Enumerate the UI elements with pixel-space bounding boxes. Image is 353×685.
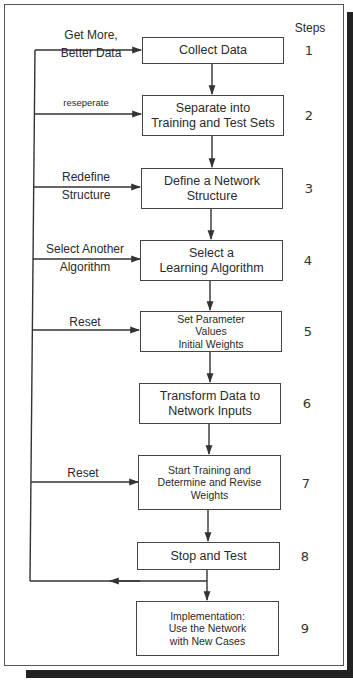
label-text: Get More,: [46, 28, 136, 43]
step-box-start-training: Start Training and Determine and Revise …: [138, 455, 281, 510]
feedback-label-select-another-algorithm: Select Another Algorithm: [38, 242, 132, 275]
box-text: Implementation:: [170, 610, 245, 623]
label-text: Select Another: [38, 242, 132, 257]
step-box-select-algorithm: Select a Learning Algorithm: [140, 240, 283, 281]
step-box-separate-sets: Separate into Training and Test Sets: [142, 95, 284, 136]
box-text: Select a: [189, 246, 234, 261]
feedback-vertical-line: [30, 50, 35, 581]
box-text: Set Parameter: [177, 313, 245, 326]
step-number-6: 6: [295, 396, 319, 411]
step-number-9: 9: [293, 621, 317, 636]
label-text: Redefine: [45, 170, 127, 185]
step-number-5: 5: [296, 324, 320, 339]
box-text: with New Cases: [170, 635, 245, 648]
feedback-label-get-more-data: Get More, Better Data: [46, 28, 136, 61]
box-text: Determine and Revise: [158, 476, 262, 489]
box-text: Learning Algorithm: [159, 261, 263, 276]
box-text: Use the Network: [169, 622, 247, 635]
label-text: Reset: [50, 315, 120, 330]
label-text: Algorithm: [38, 260, 132, 275]
feedback-label-reset-5: Reset: [50, 315, 120, 330]
step-box-implementation: Implementation: Use the Network with New…: [136, 601, 279, 656]
step-box-define-structure: Define a Network Structure: [141, 168, 283, 209]
box-text: Define a Network: [164, 174, 260, 189]
step-box-transform-data: Transform Data to Network Inputs: [139, 383, 281, 424]
step-box-set-parameters: Set Parameter Values Initial Weights: [140, 311, 282, 352]
step-number-8: 8: [293, 549, 317, 564]
label-text: Structure: [45, 188, 127, 203]
box-text: Initial Weights: [178, 338, 243, 351]
step-number-4: 4: [296, 253, 320, 268]
step-number-2: 2: [297, 108, 321, 123]
label-text: Reset: [48, 466, 118, 481]
box-text: Separate into: [176, 101, 250, 116]
label-text: Better Data: [46, 46, 136, 61]
box-text: Collect Data: [179, 43, 247, 58]
box-text: Network Inputs: [168, 404, 251, 419]
box-text: Transform Data to: [160, 389, 260, 404]
box-text: Training and Test Sets: [151, 116, 275, 131]
box-text: Stop and Test: [170, 549, 246, 564]
steps-column-header: Steps: [290, 21, 330, 35]
step-number-7: 7: [294, 476, 318, 491]
feedback-label-reset-7: Reset: [48, 466, 118, 481]
step-box-collect-data: Collect Data: [142, 37, 284, 64]
box-text: Values: [195, 325, 226, 338]
feedback-label-reseperate: reseperate: [46, 97, 126, 109]
step-box-stop-and-test: Stop and Test: [137, 542, 280, 570]
step-number-3: 3: [297, 181, 321, 196]
feedback-label-redefine-structure: Redefine Structure: [45, 170, 127, 203]
box-text: Weights: [191, 489, 229, 502]
step-number-1: 1: [297, 43, 321, 58]
box-text: Structure: [187, 189, 238, 204]
box-text: Start Training and: [168, 464, 251, 477]
label-text: reseperate: [46, 97, 126, 109]
